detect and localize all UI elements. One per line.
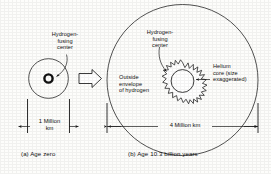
figure-stellar-evolution: Hydrogen- fusing center 1 Million km (a)… bbox=[0, 0, 271, 174]
evolves-to-arrow bbox=[79, 70, 102, 88]
scale-label-1-million-km: 1 Million km bbox=[30, 118, 69, 132]
pointer-hydrogen-center-b bbox=[159, 47, 166, 72]
star-disc-age-zero bbox=[29, 59, 69, 99]
helium-core-disc bbox=[171, 70, 194, 93]
pointer-hydrogen-center-a bbox=[57, 55, 68, 77]
label-hydrogen-fusing-center-b: Hydrogen- fusing center bbox=[136, 29, 184, 49]
label-helium-core: Helium core (size exaggerated) bbox=[213, 63, 265, 83]
scale-label-4-million-km: 4 Million km bbox=[158, 122, 212, 129]
caption-panel-b: (b) Age 10.3 billion years bbox=[128, 150, 198, 157]
label-outside-envelope-of-hydrogen: Outside envelope of hydrogen bbox=[119, 74, 167, 94]
caption-panel-a: (a) Age zero bbox=[21, 150, 55, 157]
hydrogen-fusing-core-a bbox=[44, 74, 52, 82]
label-hydrogen-fusing-center-a: Hydrogen- fusing center bbox=[42, 31, 88, 51]
